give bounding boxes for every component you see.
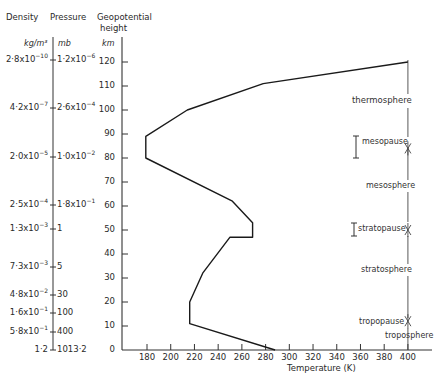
- layer-reference-line: [405, 60, 411, 350]
- y-axis-ticks: [122, 62, 128, 326]
- mesopause-bracket-icon: [353, 136, 359, 158]
- x-axis-ticks: [147, 344, 408, 350]
- temperature-profile-chart: [0, 0, 445, 381]
- stratopause-bracket-icon: [351, 223, 357, 236]
- temperature-curve: [146, 62, 408, 350]
